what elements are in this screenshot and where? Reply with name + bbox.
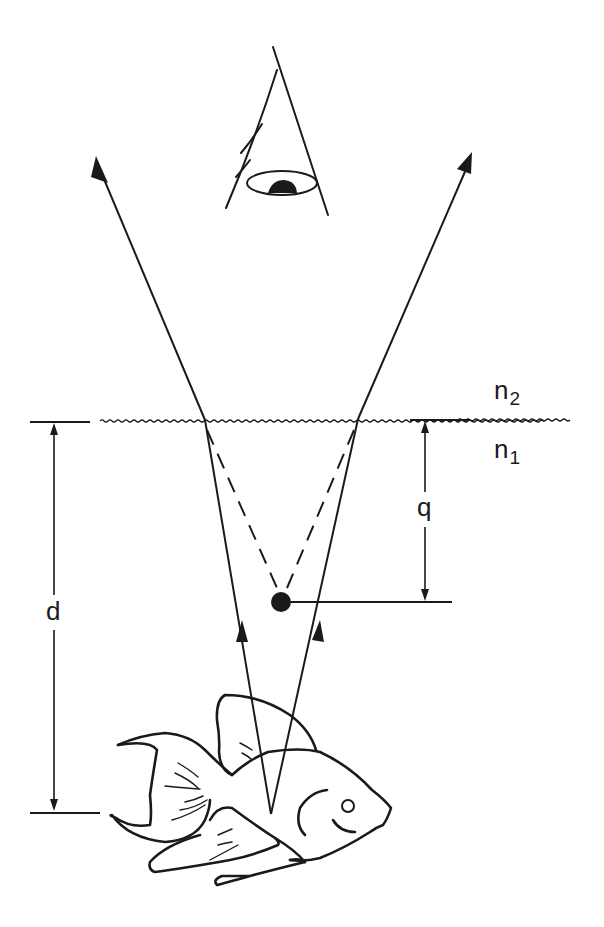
virtual-image-dot bbox=[271, 592, 291, 612]
right-refracted-ray bbox=[358, 152, 472, 419]
right-virtual-ray-extension bbox=[287, 430, 354, 588]
fish-icon bbox=[111, 695, 391, 885]
water-surface bbox=[30, 419, 570, 422]
label-n1: n1 bbox=[494, 436, 520, 467]
left-virtual-ray-extension bbox=[207, 430, 277, 588]
arrowhead-icon bbox=[236, 620, 248, 642]
arrowhead-icon bbox=[91, 156, 108, 183]
water-surface-wave-left bbox=[100, 420, 544, 422]
n2-subscript: 2 bbox=[509, 388, 520, 409]
left-refracted-ray bbox=[91, 156, 205, 420]
n1-symbol: n bbox=[494, 434, 508, 464]
n2-symbol: n bbox=[494, 375, 508, 405]
water-surface-wave-right bbox=[458, 419, 570, 421]
right-incident-ray bbox=[271, 419, 358, 814]
eye-icon bbox=[226, 47, 328, 215]
arrowhead-icon bbox=[457, 152, 472, 174]
label-q: q bbox=[417, 494, 431, 520]
n1-subscript: 1 bbox=[509, 447, 520, 468]
label-d: d bbox=[46, 598, 60, 624]
label-n2: n2 bbox=[494, 377, 520, 408]
